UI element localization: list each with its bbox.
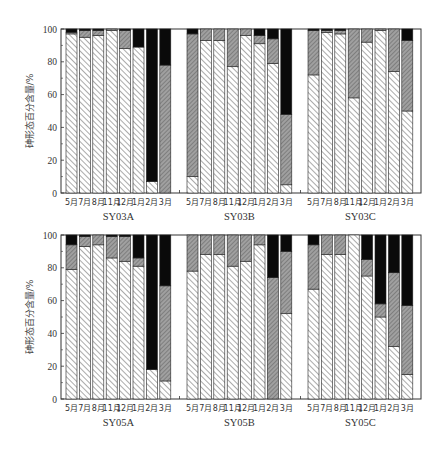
group-label: SY05A [103, 417, 135, 428]
white-hatch-segment [254, 245, 265, 399]
black-segment [335, 29, 346, 31]
x-category-label: 2月 [145, 198, 158, 207]
group-label: SY03A [103, 211, 135, 222]
x-category-label: 5月 [307, 198, 320, 207]
group-label: SY03B [224, 211, 255, 222]
y-tick-label: 40 [48, 123, 58, 133]
gray-hatch-segment [200, 235, 211, 255]
white-hatch-segment [214, 40, 225, 193]
white-hatch-segment [308, 289, 319, 399]
black-segment [66, 29, 77, 32]
black-segment [187, 29, 198, 34]
gray-hatch-segment [227, 235, 238, 266]
black-segment [160, 29, 171, 65]
x-category-label: 1月 [374, 404, 387, 413]
group-label: SY03C [345, 211, 376, 222]
y-tick-label: 100 [43, 231, 58, 241]
black-segment [402, 235, 413, 306]
white-hatch-segment [388, 72, 399, 193]
y-tick-label: 0 [52, 395, 57, 405]
gray-hatch-segment [160, 65, 171, 193]
gray-hatch-segment [267, 278, 278, 399]
x-category-label: 2月 [387, 198, 400, 207]
black-segment [146, 29, 157, 182]
black-segment [321, 29, 332, 31]
gray-hatch-segment [241, 29, 252, 36]
y-tick-label: 20 [48, 362, 58, 372]
y-tick-label: 60 [48, 296, 58, 306]
black-segment [120, 235, 131, 237]
x-category-label: 2月 [266, 404, 279, 413]
gray-hatch-segment [402, 40, 413, 111]
gray-hatch-segment [200, 29, 211, 40]
white-hatch-segment [133, 47, 144, 193]
black-segment [308, 235, 319, 245]
black-segment [254, 29, 265, 36]
black-segment [160, 235, 171, 286]
gray-hatch-segment [79, 31, 90, 38]
x-category-label: 2月 [266, 198, 279, 207]
gray-hatch-segment [133, 258, 144, 266]
white-hatch-segment [79, 37, 90, 193]
gray-hatch-segment [120, 31, 131, 49]
x-category-label: 3月 [280, 198, 293, 207]
black-segment [120, 29, 131, 31]
black-segment [388, 235, 399, 273]
gray-hatch-segment [362, 29, 373, 42]
x-category-label: 5月 [186, 198, 199, 207]
gray-hatch-segment [120, 237, 131, 262]
gray-hatch-segment [375, 304, 386, 317]
white-hatch-segment [120, 49, 131, 193]
gray-hatch-segment [388, 29, 399, 72]
white-hatch-segment [348, 98, 359, 193]
gray-hatch-segment [93, 235, 104, 245]
gray-hatch-segment [281, 114, 292, 185]
black-segment [267, 235, 278, 278]
y-axis-label: 砷形态百分含量/% [24, 73, 35, 148]
bar-group-sy03b: 5月7月8月11月12月1月2月3月SY03B [180, 29, 293, 222]
white-hatch-segment [348, 235, 359, 399]
white-hatch-segment [200, 40, 211, 193]
white-hatch-segment [133, 266, 144, 399]
gray-hatch-segment [375, 29, 386, 31]
white-hatch-segment [66, 269, 77, 399]
bar-group-sy03c: 5月7月8月11月12月1月2月3月SY03C [301, 29, 414, 222]
white-hatch-segment [388, 347, 399, 399]
black-segment [267, 29, 278, 39]
x-category-label: 7月 [199, 198, 212, 207]
x-category-label: 7月 [199, 404, 212, 413]
white-hatch-segment [267, 63, 278, 193]
black-segment [146, 235, 157, 369]
white-hatch-segment [375, 317, 386, 399]
y-tick-label: 60 [48, 90, 58, 100]
gray-hatch-segment [160, 286, 171, 381]
gray-hatch-segment [267, 39, 278, 64]
black-segment [402, 29, 413, 40]
white-hatch-segment [79, 246, 90, 399]
black-segment [308, 29, 319, 31]
x-category-label: 3月 [401, 198, 414, 207]
white-hatch-segment [402, 374, 413, 399]
y-tick-label: 40 [48, 329, 58, 339]
gray-hatch-segment [348, 29, 359, 98]
white-hatch-segment [214, 255, 225, 399]
y-tick-label: 100 [43, 25, 58, 35]
white-hatch-segment [146, 182, 157, 193]
x-category-label: 3月 [280, 404, 293, 413]
white-hatch-segment [335, 255, 346, 399]
white-hatch-segment [335, 34, 346, 193]
white-hatch-segment [200, 255, 211, 399]
gray-hatch-segment [66, 245, 77, 270]
gray-hatch-segment [402, 306, 413, 375]
x-category-label: 1月 [253, 404, 266, 413]
gray-hatch-segment [254, 36, 265, 44]
white-hatch-segment [120, 261, 131, 399]
white-hatch-segment [227, 67, 238, 193]
x-category-label: 7月 [320, 198, 333, 207]
gray-hatch-segment [362, 260, 373, 276]
x-category-label: 3月 [401, 404, 414, 413]
gray-hatch-segment [308, 31, 319, 75]
white-hatch-segment [227, 266, 238, 399]
black-segment [79, 29, 90, 31]
white-hatch-segment [187, 271, 198, 399]
